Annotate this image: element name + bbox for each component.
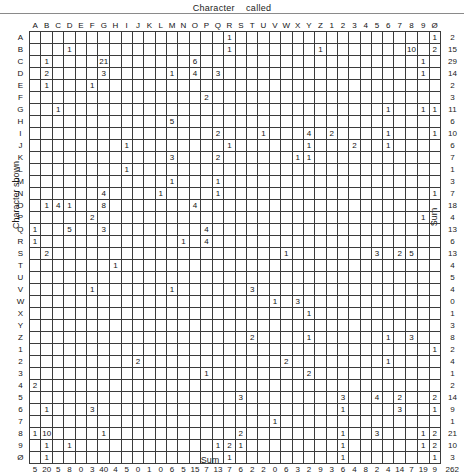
matrix-cell-V-Ø [429, 284, 440, 296]
row-header-8: 8 [12, 428, 29, 440]
matrix-cell-1-H [110, 344, 121, 356]
matrix-cell-G-Q [212, 104, 224, 116]
matrix-cell-X-5 [371, 308, 382, 320]
matrix-cell-G-L [155, 104, 166, 116]
matrix-cell-2-A [29, 356, 40, 368]
matrix-cell-9-K [144, 440, 155, 452]
matrix-cell-K-D [64, 152, 75, 164]
matrix-cell-Z-M [166, 332, 177, 344]
matrix-cell-4-J [132, 380, 143, 392]
matrix-row: 112 [12, 344, 464, 356]
matrix-cell-P-W [281, 212, 293, 224]
matrix-cell-H-5 [371, 116, 382, 128]
matrix-cell-Ø-6 [383, 452, 394, 464]
matrix-cell-3-F [87, 368, 98, 380]
matrix-cell-7-D [64, 416, 75, 428]
matrix-cell-B-O [189, 44, 201, 56]
matrix-cell-X-1 [326, 308, 337, 320]
matrix-cell-F-2 [337, 92, 348, 104]
matrix-cell-2-T [247, 356, 258, 368]
matrix-cell-F-7 [394, 92, 406, 104]
matrix-cell-4-Ø [429, 380, 440, 392]
matrix-cell-2-U [258, 356, 269, 368]
matrix-cell-3-C [53, 368, 64, 380]
matrix-cell-Ø-E [75, 452, 86, 464]
matrix-cell-N-D [64, 188, 75, 200]
matrix-cell-W-5 [371, 296, 382, 308]
matrix-cell-K-Z [315, 152, 326, 164]
matrix-cell-S-Q [212, 248, 224, 260]
matrix-cell-H-D [64, 116, 75, 128]
column-sum-T: 2 [247, 464, 258, 476]
matrix-cell-M-W [281, 176, 293, 188]
matrix-cell-7-7 [394, 416, 406, 428]
matrix-cell-L-9 [417, 164, 429, 176]
matrix-cell-C-I [121, 56, 132, 68]
row-sum-V: 4 [440, 284, 464, 296]
matrix-cell-Ø-H [110, 452, 121, 464]
column-sum-K: 1 [144, 464, 155, 476]
row-header-E: E [12, 80, 29, 92]
matrix-cell-6-7: 3 [394, 404, 406, 416]
matrix-cell-X-Y: 1 [303, 308, 314, 320]
row-sum-9: 10 [440, 440, 464, 452]
matrix-cell-Y-Ø [429, 320, 440, 332]
matrix-cell-5-K [144, 392, 155, 404]
matrix-cell-P-5 [371, 212, 382, 224]
matrix-cell-H-F [87, 116, 98, 128]
matrix-cell-6-S [235, 404, 246, 416]
matrix-row: D23143114 [12, 68, 464, 80]
matrix-cell-5-L [155, 392, 166, 404]
matrix-cell-A-R: 1 [224, 32, 235, 44]
row-sum-R: 6 [440, 236, 464, 248]
matrix-cell-6-N [178, 404, 189, 416]
matrix-cell-X-O [189, 308, 201, 320]
matrix-cell-M-C [53, 176, 64, 188]
matrix-cell-L-B [41, 164, 53, 176]
matrix-cell-6-Z [315, 404, 326, 416]
matrix-cell-Q-C [53, 224, 64, 236]
matrix-cell-P-1 [326, 212, 337, 224]
column-header-H: H [110, 20, 121, 32]
matrix-cell-I-M [166, 128, 177, 140]
column-header-2: 2 [337, 20, 348, 32]
matrix-cell-8-A: 1 [29, 428, 40, 440]
matrix-cell-P-T [247, 212, 258, 224]
matrix-cell-X-8 [406, 308, 418, 320]
matrix-cell-P-J [132, 212, 143, 224]
column-header-Ø: Ø [429, 20, 440, 32]
matrix-cell-X-V [269, 308, 280, 320]
matrix-cell-4-2 [337, 380, 348, 392]
matrix-cell-Y-T [247, 320, 258, 332]
matrix-cell-2-C [53, 356, 64, 368]
matrix-cell-R-V [269, 236, 280, 248]
matrix-cell-C-U [258, 56, 269, 68]
matrix-cell-3-Q [212, 368, 224, 380]
matrix-cell-6-L [155, 404, 166, 416]
matrix-cell-E-D [64, 80, 75, 92]
matrix-cell-H-H [110, 116, 121, 128]
matrix-cell-C-P [201, 56, 212, 68]
matrix-cell-C-2 [337, 56, 348, 68]
matrix-cell-7-F [87, 416, 98, 428]
matrix-body: A112B11110215C1216129D23143114E112F23G11… [12, 32, 464, 476]
matrix-cell-F-5 [371, 92, 382, 104]
matrix-cell-B-F [87, 44, 98, 56]
matrix-cell-W-M [166, 296, 177, 308]
matrix-cell-A-2 [337, 32, 348, 44]
matrix-cell-W-3 [349, 296, 360, 308]
matrix-cell-F-6 [383, 92, 394, 104]
matrix-cell-D-7 [394, 68, 406, 80]
matrix-cell-G-8 [406, 104, 418, 116]
matrix-cell-V-E [75, 284, 86, 296]
matrix-cell-4-E [75, 380, 86, 392]
matrix-cell-7-P [201, 416, 212, 428]
column-sum-V: 0 [269, 464, 280, 476]
matrix-cell-K-3 [349, 152, 360, 164]
matrix-cell-Z-L [155, 332, 166, 344]
matrix-cell-S-6 [383, 248, 394, 260]
matrix-cell-7-H [110, 416, 121, 428]
matrix-cell-9-A [29, 440, 40, 452]
row-sum-J: 6 [440, 140, 464, 152]
matrix-cell-5-3 [349, 392, 360, 404]
